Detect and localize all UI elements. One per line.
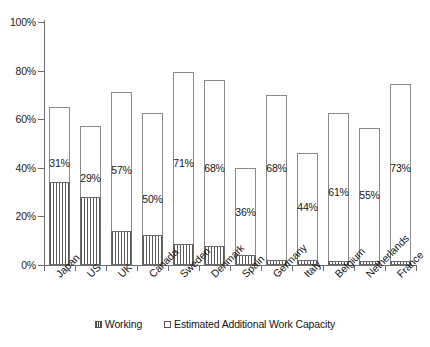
- y-axis-tick-label: 60%: [16, 114, 36, 124]
- bar-segment-working: [49, 182, 70, 265]
- legend-swatch-working-icon: [95, 321, 102, 328]
- y-axis-tick-label: 0%: [21, 260, 36, 270]
- x-axis-tick: [230, 266, 231, 271]
- bar-segment-capacity: [266, 95, 287, 265]
- bar-data-label: 73%: [386, 163, 415, 174]
- y-axis-tick: [38, 22, 44, 23]
- bar-chart: 0%20%40%60%80%100% 31%29%57%50%71%68%36%…: [0, 0, 430, 347]
- chart-legend: WorkingEstimated Additional Work Capacit…: [0, 318, 430, 330]
- x-axis-tick: [75, 266, 76, 271]
- x-axis-tick: [44, 266, 45, 271]
- y-axis-tick: [38, 71, 44, 72]
- bar-group: [80, 126, 101, 265]
- bar-group: [111, 92, 132, 265]
- x-axis-tick: [385, 266, 386, 271]
- y-axis-tick: [38, 216, 44, 217]
- bar-segment-working: [80, 197, 101, 265]
- legend-swatch-capacity-icon: [164, 321, 171, 328]
- legend-item[interactable]: Estimated Additional Work Capacity: [164, 318, 335, 330]
- x-axis-tick: [137, 266, 138, 271]
- bar-data-label: 29%: [76, 173, 105, 184]
- bar-group: [266, 95, 287, 265]
- bar-data-label: 36%: [231, 207, 260, 218]
- legend-item-label: Estimated Additional Work Capacity: [174, 318, 335, 330]
- bar-data-label: 50%: [138, 194, 167, 205]
- y-axis-tick-label: 20%: [16, 211, 36, 221]
- bar-data-label: 44%: [293, 202, 322, 213]
- bar-data-label: 57%: [107, 165, 136, 176]
- legend-item-label: Working: [105, 318, 142, 330]
- bar-group: [142, 113, 163, 265]
- x-axis-tick: [168, 266, 169, 271]
- x-axis-tick: [199, 266, 200, 271]
- y-axis-tick: [38, 119, 44, 120]
- x-axis-tick: [416, 266, 417, 271]
- bar-data-label: 68%: [262, 163, 291, 174]
- y-axis-tick-label: 100%: [10, 17, 36, 27]
- y-axis-line: [44, 20, 45, 267]
- bar-segment-working: [111, 231, 132, 265]
- x-axis-tick: [323, 266, 324, 271]
- y-axis-tick: [38, 168, 44, 169]
- bar-data-label: 68%: [200, 163, 229, 174]
- legend-item[interactable]: Working: [95, 318, 142, 330]
- x-axis-tick: [261, 266, 262, 271]
- y-axis-tick-label: 80%: [16, 66, 36, 76]
- x-axis-tick: [354, 266, 355, 271]
- bar-data-label: 31%: [45, 158, 74, 169]
- bar-data-label: 71%: [169, 158, 198, 169]
- x-axis-tick: [106, 266, 107, 271]
- y-axis-tick-label: 40%: [16, 163, 36, 173]
- x-axis-tick: [292, 266, 293, 271]
- bar-data-label: 55%: [355, 190, 384, 201]
- bar-group: [49, 107, 70, 265]
- bar-data-label: 61%: [324, 187, 353, 198]
